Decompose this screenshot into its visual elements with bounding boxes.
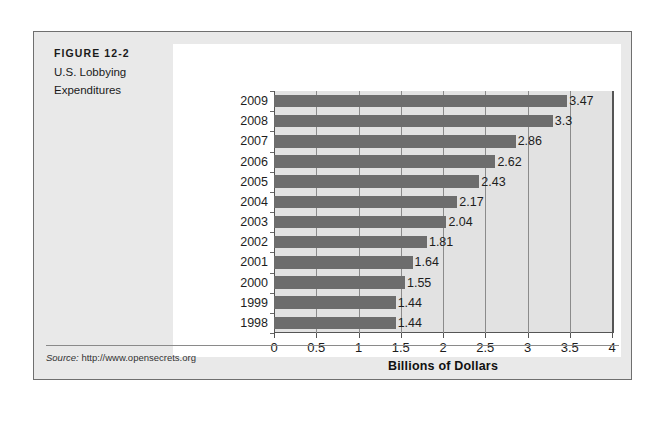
- bar-value-label: 3.3: [555, 114, 572, 128]
- y-axis-tick-mark: [270, 131, 274, 132]
- y-axis-tick-label: 2003: [240, 215, 268, 229]
- x-axis-tick-mark: [570, 333, 571, 338]
- bar-value-label: 1.44: [398, 316, 422, 330]
- bar-value-label: 1.81: [429, 235, 453, 249]
- bar-value-label: 1.55: [407, 276, 431, 290]
- figure-box: FIGURE 12-2 U.S. Lobbying Expenditures 2…: [33, 31, 632, 380]
- bar-value-label: 1.64: [415, 255, 439, 269]
- y-axis-tick-mark: [270, 313, 274, 314]
- y-axis-tick-mark: [270, 192, 274, 193]
- bar: 2.86: [274, 135, 516, 148]
- bar: 3.3: [274, 115, 553, 128]
- figure-number: FIGURE 12-2: [54, 45, 174, 61]
- bar-row: 20052.43: [274, 175, 612, 188]
- x-axis-tick-label: 2.5: [476, 340, 494, 355]
- source-note: Source: http://www.opensecrets.org: [46, 352, 196, 363]
- x-axis-tick-mark: [443, 333, 444, 338]
- bar: 1.55: [274, 276, 405, 289]
- bar-chart: 20093.4720083.320072.8620062.6220052.432…: [274, 91, 612, 333]
- y-axis-tick-mark: [270, 172, 274, 173]
- figure-title: U.S. Lobbying Expenditures: [54, 64, 174, 99]
- bar: 1.81: [274, 236, 427, 249]
- bar-value-label: 2.43: [481, 175, 505, 189]
- bar: 1.44: [274, 296, 396, 309]
- source-divider: [46, 345, 619, 346]
- x-axis-tick-mark: [485, 333, 486, 338]
- bar-row: 20032.04: [274, 216, 612, 229]
- bar-row: 19981.44: [274, 317, 612, 330]
- y-axis-tick-label: 2008: [240, 114, 268, 128]
- x-axis-tick-label: 0.5: [307, 340, 325, 355]
- y-axis-tick-label: 1999: [240, 296, 268, 310]
- bar-value-label: 2.17: [459, 195, 483, 209]
- bar-value-label: 1.44: [398, 296, 422, 310]
- source-url: http://www.opensecrets.org: [81, 352, 196, 363]
- bar-row: 19991.44: [274, 296, 612, 309]
- bar-value-label: 3.47: [569, 94, 593, 108]
- bar-value-label: 2.62: [497, 155, 521, 169]
- y-axis-tick-label: 2006: [240, 155, 268, 169]
- bar-row: 20093.47: [274, 95, 612, 108]
- y-axis-tick-label: 2001: [240, 255, 268, 269]
- bar: 2.62: [274, 155, 495, 168]
- figure-title-line-2: Expenditures: [54, 82, 174, 100]
- bar: 2.04: [274, 216, 446, 229]
- y-axis-tick-label: 2007: [240, 134, 268, 148]
- bar-row: 20011.64: [274, 256, 612, 269]
- bar: 2.43: [274, 175, 479, 188]
- bar-row: 20042.17: [274, 196, 612, 209]
- y-axis-tick-mark: [270, 212, 274, 213]
- x-axis-title: Billions of Dollars: [388, 359, 498, 373]
- source-label: Source:: [46, 352, 79, 363]
- y-axis-tick-mark: [270, 152, 274, 153]
- y-axis-tick-mark: [270, 293, 274, 294]
- y-axis-tick-label: 2004: [240, 195, 268, 209]
- chart-panel: 20093.4720083.320072.8620062.6220052.432…: [173, 44, 621, 357]
- gridline: [612, 91, 614, 333]
- bar: 1.64: [274, 256, 413, 269]
- y-axis-tick-mark: [270, 111, 274, 112]
- y-axis-tick-mark: [270, 252, 274, 253]
- x-axis-tick-label: 1: [355, 340, 362, 355]
- x-axis-tick-mark: [401, 333, 402, 338]
- y-axis-tick-mark: [270, 232, 274, 233]
- y-axis-tick-label: 2000: [240, 276, 268, 290]
- bar-row: 20021.81: [274, 236, 612, 249]
- x-axis-tick-mark: [274, 333, 275, 338]
- x-axis-tick-label: 2: [439, 340, 446, 355]
- bar-value-label: 2.04: [448, 215, 472, 229]
- x-axis-tick-label: 4: [608, 340, 615, 355]
- x-axis-tick-mark: [528, 333, 529, 338]
- bar: 3.47: [274, 95, 567, 108]
- y-axis-tick-label: 1998: [240, 316, 268, 330]
- y-axis-tick-mark: [270, 273, 274, 274]
- x-axis-tick-mark: [359, 333, 360, 338]
- x-axis-tick-mark: [612, 333, 613, 338]
- bar-row: 20083.3: [274, 115, 612, 128]
- x-axis-tick-mark: [316, 333, 317, 338]
- y-axis-tick-label: 2005: [240, 175, 268, 189]
- x-axis-tick-label: 3.5: [561, 340, 579, 355]
- bar: 1.44: [274, 317, 396, 330]
- x-axis-tick-label: 3: [524, 340, 531, 355]
- x-axis-tick-label: 0: [270, 340, 277, 355]
- y-axis-tick-mark: [270, 91, 274, 92]
- y-axis-tick-label: 2002: [240, 235, 268, 249]
- y-axis-tick-label: 2009: [240, 94, 268, 108]
- bar-row: 20062.62: [274, 155, 612, 168]
- bar: 2.17: [274, 196, 457, 209]
- bar-row: 20072.86: [274, 135, 612, 148]
- bar-row: 20001.55: [274, 276, 612, 289]
- figure-caption: FIGURE 12-2 U.S. Lobbying Expenditures: [54, 45, 174, 99]
- bar-value-label: 2.86: [518, 134, 542, 148]
- figure-title-line-1: U.S. Lobbying: [54, 64, 174, 82]
- x-axis-tick-label: 1.5: [392, 340, 410, 355]
